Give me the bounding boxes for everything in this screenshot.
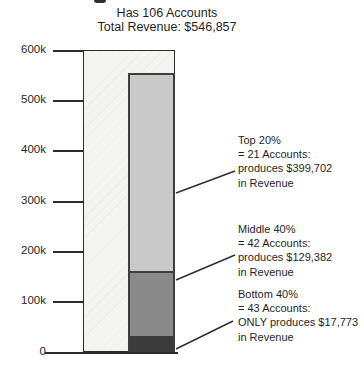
annotation-line: = 43 Accounts:: [238, 301, 358, 315]
y-tick-label-600k: 600k: [0, 43, 46, 56]
annotation-line: = 42 Accounts:: [238, 236, 332, 250]
y-tick-label-500k: 500k: [0, 93, 46, 106]
annotation-middle-40: Middle 40% = 42 Accounts: produces $129,…: [238, 222, 332, 279]
segment-top-20: [130, 75, 173, 271]
chart-canvas: Has 106 Accounts Total Revenue: $546,857…: [0, 0, 364, 372]
annotation-line: in Revenue: [238, 330, 358, 344]
y-tick-label-0: 0: [0, 345, 46, 358]
y-tick-label-200k: 200k: [0, 244, 46, 257]
annotation-line: in Revenue: [238, 265, 332, 279]
annotation-line: ONLY produces $17,773: [238, 315, 358, 329]
y-tick-label-100k: 100k: [0, 294, 46, 307]
cropped-title-fragment: [94, 0, 106, 3]
annotation-line: in Revenue: [238, 176, 332, 190]
annotation-line: Top 20%: [238, 133, 332, 147]
callout-line-top-20: [176, 171, 235, 193]
callout-line-bottom-40: [176, 321, 233, 349]
y-tick-label-400k: 400k: [0, 143, 46, 156]
annotation-line: produces $399,702: [238, 161, 332, 175]
chart-title: Has 106 Accounts: [0, 6, 334, 20]
segment-bottom-40: [130, 336, 173, 352]
annotation-top-20: Top 20% = 21 Accounts: produces $399,702…: [238, 133, 332, 190]
callout-line-middle-40: [176, 255, 235, 280]
y-tick-label-300k: 300k: [0, 194, 46, 207]
segment-middle-40: [130, 273, 173, 336]
chart-subtitle: Total Revenue: $546,857: [0, 20, 334, 34]
y-tick-600k: [53, 50, 84, 52]
annotation-line: = 21 Accounts:: [238, 147, 332, 161]
annotation-bottom-40: Bottom 40% = 43 Accounts: ONLY produces …: [238, 287, 358, 344]
x-axis-baseline: [45, 352, 178, 354]
annotation-line: produces $129,382: [238, 250, 332, 264]
annotation-line: Middle 40%: [238, 222, 332, 236]
annotation-line: Bottom 40%: [238, 287, 358, 301]
revenue-stacked-bar: [128, 73, 175, 352]
